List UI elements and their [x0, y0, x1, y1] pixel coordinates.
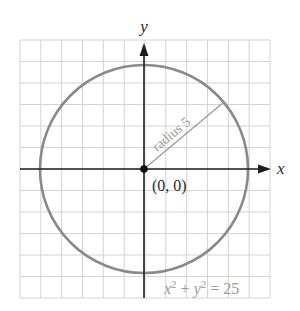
equation-plus: +	[177, 280, 194, 297]
background	[0, 0, 300, 311]
x-axis-label: x	[276, 159, 285, 178]
equation-rhs: = 25	[206, 280, 239, 297]
circle-graph-figure: x y (0, 0) radius 5 x2 + y2 = 25	[0, 0, 300, 311]
equation-x: x	[163, 280, 171, 297]
y-axis-label: y	[138, 17, 148, 36]
origin-label: (0, 0)	[152, 177, 187, 195]
origin-point	[140, 165, 148, 173]
